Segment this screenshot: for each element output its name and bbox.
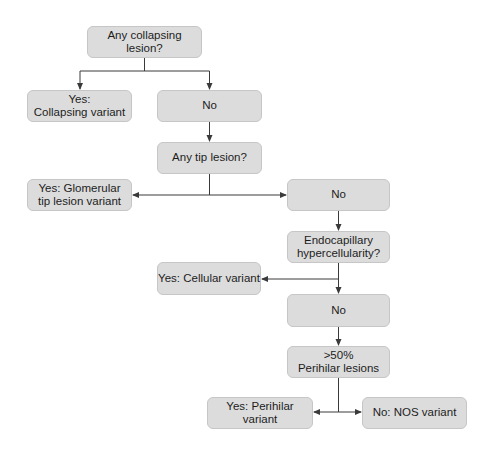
node-any-collapsing-lesion: Any collapsing lesion? — [87, 26, 202, 58]
node-no-3: No — [287, 294, 390, 327]
node-no-1: No — [157, 90, 262, 122]
node-any-tip-lesion: Any tip lesion? — [157, 142, 262, 174]
node-yes-perihilar-variant: Yes: Perihilar variant — [207, 397, 313, 429]
node-perihilar-lesions-over-50: >50% Perihilar lesions — [287, 346, 390, 378]
node-no-nos-variant: No: NOS variant — [362, 397, 467, 429]
node-yes-glomerular-tip-lesion-variant: Yes: Glomerular tip lesion variant — [27, 179, 132, 211]
node-endocapillary-hypercellularity: Endocapillary hypercellularity? — [287, 231, 390, 263]
node-yes-collapsing-variant: Yes: Collapsing variant — [27, 90, 132, 122]
node-no-2: No — [287, 179, 390, 211]
connector-lines — [0, 0, 490, 454]
node-yes-cellular-variant: Yes: Cellular variant — [157, 262, 261, 295]
